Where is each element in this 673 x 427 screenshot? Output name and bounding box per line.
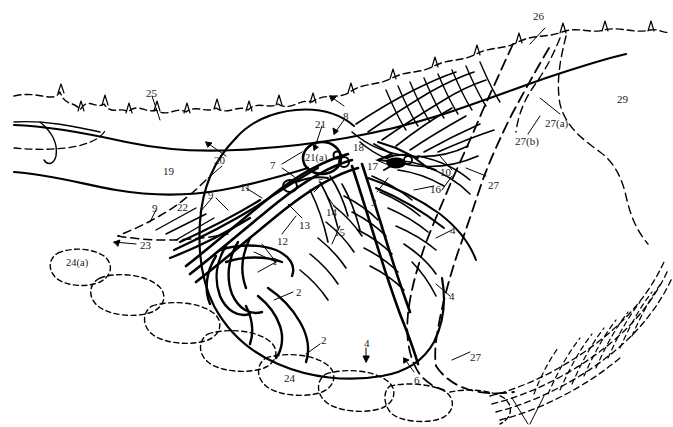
ref-label-20: 20 <box>214 155 225 166</box>
ref-label-23: 23 <box>140 240 151 251</box>
band-19-thin <box>14 122 100 164</box>
ref-label-14: 14 <box>326 207 337 218</box>
ref-label-17: 17 <box>367 161 378 172</box>
leader-lines <box>114 28 560 372</box>
lower-right-dashed-fibers <box>534 282 662 394</box>
ref-label-29: 29 <box>617 94 628 105</box>
ref-label-25: 25 <box>146 88 157 99</box>
figure-canvas: 25 26 29 27(a) 27(b) 27 27 8 21 18 21(a)… <box>0 0 673 427</box>
ref-label-13: 13 <box>299 220 310 231</box>
ref-label-27b: 27(b) <box>515 136 539 147</box>
ref-label-24a: 24(a) <box>66 258 88 269</box>
ref-label-3: 3 <box>371 197 377 208</box>
ref-label-15: 15 <box>334 227 345 238</box>
ref-label-10: 10 <box>440 167 451 178</box>
ref-label-22: 22 <box>177 202 188 213</box>
ref-label-21: 21 <box>315 119 326 130</box>
ref-label-27a: 27(a) <box>545 118 568 129</box>
ref-label-26: 26 <box>533 11 544 22</box>
band-left-dashed-tail <box>14 128 106 149</box>
ref-label-4-mid: 4 <box>449 291 455 302</box>
ref-label-2-lower: 2 <box>321 335 327 346</box>
ref-label-5: 5 <box>318 177 324 188</box>
ref-label-4-upper: 4 <box>450 225 456 236</box>
dashed-line-27-lower <box>414 364 514 393</box>
lower-right-dashed-bands <box>490 262 672 420</box>
ref-label-9-upper: 9 <box>208 190 214 201</box>
main-oval-upper-arc <box>236 110 354 138</box>
upper-dashed-boundary-spikes <box>58 21 654 113</box>
band-19-lower <box>14 168 308 195</box>
ref-label-4-lower: 4 <box>364 338 370 349</box>
leader-28 <box>512 396 544 424</box>
ref-label-16: 16 <box>430 184 441 195</box>
ref-label-8: 8 <box>343 111 349 122</box>
ref-label-21a: 21(a) <box>305 153 327 164</box>
ref-label-27-bottom: 27 <box>470 352 481 363</box>
ref-label-24: 24 <box>284 373 295 384</box>
ref-label-27-right: 27 <box>488 180 499 191</box>
oblique-fiber-fan-short <box>386 62 500 130</box>
ref-label-7: 7 <box>270 160 276 171</box>
upper-dashed-boundary <box>14 29 670 113</box>
ref-label-19: 19 <box>163 166 174 177</box>
ref-label-11: 11 <box>240 182 251 193</box>
ref-label-18: 18 <box>353 142 364 153</box>
nerve-recurrent-loops <box>207 238 308 362</box>
ref-label-1: 1 <box>272 256 278 267</box>
ref-label-12: 12 <box>277 236 288 247</box>
dashed-segments-24 <box>50 249 510 424</box>
ref-label-9-lower: 9 <box>152 203 158 214</box>
ref-label-6: 6 <box>414 375 420 386</box>
ref-label-2-upper: 2 <box>296 287 302 298</box>
